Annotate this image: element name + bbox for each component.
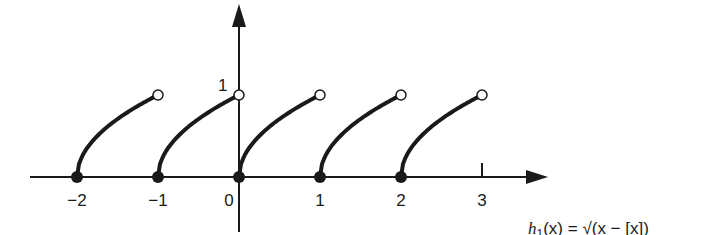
function-caption: h1(x) = √(x − [x])	[528, 219, 649, 235]
x-tick-label: 0	[224, 191, 233, 211]
curve-segment	[239, 95, 320, 177]
curve-segment	[158, 95, 239, 177]
x-tick-label: −1	[148, 191, 167, 211]
y-tick-label: 1	[218, 76, 227, 96]
open-endpoint-icon	[234, 90, 244, 100]
x-tick-label: −2	[67, 191, 86, 211]
closed-endpoint-icon	[395, 171, 407, 183]
caption-rest: (x) = √(x − [x])	[543, 219, 649, 235]
open-endpoint-icon	[396, 90, 406, 100]
y-axis-arrow-icon	[232, 4, 246, 27]
closed-endpoint-icon	[71, 171, 83, 183]
x-tick-label: 3	[477, 191, 486, 211]
x-tick-label: 1	[315, 191, 324, 211]
closed-endpoint-icon	[314, 171, 326, 183]
curve-segment	[320, 95, 401, 177]
open-endpoint-icon	[315, 90, 325, 100]
closed-endpoint-icon	[233, 171, 245, 183]
open-endpoint-icon	[477, 90, 487, 100]
open-endpoint-icon	[153, 90, 163, 100]
curve-segment	[401, 95, 482, 177]
function-curves	[71, 90, 487, 183]
curve-segment	[77, 95, 158, 177]
caption-fn: h	[528, 219, 537, 235]
x-axis-arrow-icon	[526, 170, 548, 184]
chart-canvas	[0, 0, 714, 235]
x-tick-label: 2	[396, 191, 405, 211]
closed-endpoint-icon	[152, 171, 164, 183]
